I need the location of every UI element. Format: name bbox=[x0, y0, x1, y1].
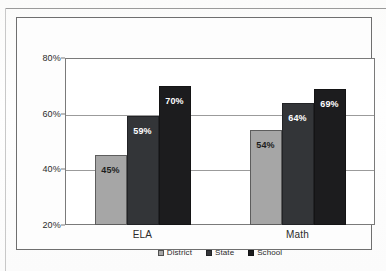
bar-state-math[interactable]: 64% bbox=[282, 103, 314, 225]
y-axis: 20%40%60%80% bbox=[17, 58, 61, 225]
y-axis-tick-label: 40% bbox=[17, 164, 61, 174]
legend-swatch-icon bbox=[158, 250, 164, 256]
bar-state-ela[interactable]: 59% bbox=[127, 116, 159, 225]
bar-value-label: 54% bbox=[251, 140, 281, 150]
bar-school-math[interactable]: 69% bbox=[314, 89, 346, 225]
bar-school-ela[interactable]: 70% bbox=[159, 86, 191, 225]
y-axis-tick-label: 20% bbox=[17, 220, 61, 230]
chart-figure-frame: 20%40%60%80% 45%59%70%54%64%69% ELAMath … bbox=[16, 17, 372, 250]
legend-label: School bbox=[257, 248, 282, 257]
legend-label: State bbox=[215, 248, 234, 257]
bar-value-label: 69% bbox=[315, 99, 345, 109]
legend-item-school[interactable]: School bbox=[248, 248, 282, 257]
bar-value-label: 70% bbox=[160, 96, 190, 106]
x-axis-label-ela: ELA bbox=[65, 229, 220, 240]
page-left-edge bbox=[5, 8, 6, 271]
legend-item-state[interactable]: State bbox=[206, 248, 234, 257]
bar-district-ela[interactable]: 45% bbox=[95, 155, 127, 225]
y-axis-tick-label: 80% bbox=[17, 53, 61, 63]
y-axis-tick-label: 60% bbox=[17, 109, 61, 119]
bar-value-label: 64% bbox=[283, 113, 313, 123]
bar-district-math[interactable]: 54% bbox=[250, 130, 282, 225]
legend-label: District bbox=[167, 248, 192, 257]
bar-value-label: 59% bbox=[128, 126, 158, 136]
page-top-rule bbox=[6, 8, 386, 9]
legend-item-district[interactable]: District bbox=[158, 248, 192, 257]
bar-value-label: 45% bbox=[96, 165, 126, 175]
chart-legend: DistrictStateSchool bbox=[65, 248, 375, 257]
legend-swatch-icon bbox=[248, 250, 254, 256]
x-axis-label-math: Math bbox=[220, 229, 375, 240]
legend-swatch-icon bbox=[206, 250, 212, 256]
